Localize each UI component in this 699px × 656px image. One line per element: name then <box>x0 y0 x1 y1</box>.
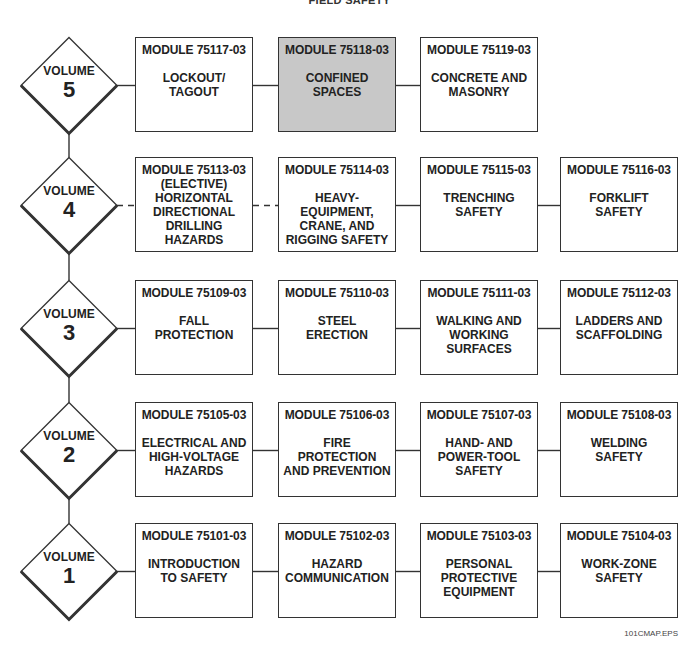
module-box: MODULE 75109-03FALL PROTECTION <box>135 280 253 375</box>
module-code: MODULE 75111-03 <box>421 286 537 300</box>
module-code: MODULE 75115-03 <box>421 163 537 177</box>
volume-word: VOLUME <box>21 64 117 78</box>
module-box: MODULE 75101-03INTRODUCTION TO SAFETY <box>135 523 253 618</box>
module-title: CONCRETE AND MASONRY <box>421 71 537 99</box>
module-title: FALL PROTECTION <box>136 314 252 342</box>
module-box: MODULE 75110-03STEEL ERECTION <box>278 280 396 375</box>
module-title: INTRODUCTION TO SAFETY <box>136 557 252 585</box>
module-box: MODULE 75104-03WORK-ZONE SAFETY <box>560 523 678 618</box>
module-box: MODULE 75115-03TRENCHING SAFETY <box>420 157 538 252</box>
volume-number: 1 <box>21 565 117 587</box>
volume-number: 4 <box>21 199 117 221</box>
volume-word: VOLUME <box>21 429 117 443</box>
module-title: WALKING AND WORKING SURFACES <box>421 314 537 356</box>
module-title: CONFINED SPACES <box>279 71 395 99</box>
volume-word: VOLUME <box>21 184 117 198</box>
module-title: (ELECTIVE) HORIZONTAL DIRECTIONAL DRILLI… <box>136 177 252 247</box>
module-title: FIRE PROTECTION AND PREVENTION <box>279 436 395 478</box>
module-title: LOCKOUT/ TAGOUT <box>136 71 252 99</box>
module-box: MODULE 75112-03LADDERS AND SCAFFOLDING <box>560 280 678 375</box>
module-code: MODULE 75110-03 <box>279 286 395 300</box>
module-box: MODULE 75106-03FIRE PROTECTION AND PREVE… <box>278 402 396 497</box>
module-code: MODULE 75109-03 <box>136 286 252 300</box>
volume-label: VOLUME2 <box>21 429 117 466</box>
module-code: MODULE 75113-03 <box>136 163 252 177</box>
module-box: MODULE 75108-03WELDING SAFETY <box>560 402 678 497</box>
module-box: MODULE 75113-03(ELECTIVE) HORIZONTAL DIR… <box>135 157 253 252</box>
volume-number: 3 <box>21 322 117 344</box>
module-code: MODULE 75103-03 <box>421 529 537 543</box>
module-title: WORK-ZONE SAFETY <box>561 557 677 585</box>
module-title: WELDING SAFETY <box>561 436 677 464</box>
volume-word: VOLUME <box>21 550 117 564</box>
module-code: MODULE 75114-03 <box>279 163 395 177</box>
module-box: MODULE 75111-03WALKING AND WORKING SURFA… <box>420 280 538 375</box>
module-code: MODULE 75119-03 <box>421 43 537 57</box>
module-box: MODULE 75105-03ELECTRICAL AND HIGH-VOLTA… <box>135 402 253 497</box>
volume-label: VOLUME3 <box>21 307 117 344</box>
module-code: MODULE 75106-03 <box>279 408 395 422</box>
module-title: LADDERS AND SCAFFOLDING <box>561 314 677 342</box>
file-label: 101CMAP.EPS <box>624 629 678 638</box>
module-box: MODULE 75103-03PERSONAL PROTECTIVE EQUIP… <box>420 523 538 618</box>
module-title: FORKLIFT SAFETY <box>561 191 677 219</box>
module-box: MODULE 75114-03HEAVY- EQUIPMENT, CRANE, … <box>278 157 396 252</box>
volume-label: VOLUME1 <box>21 550 117 587</box>
module-code: MODULE 75104-03 <box>561 529 677 543</box>
module-box: MODULE 75107-03HAND- AND POWER-TOOL SAFE… <box>420 402 538 497</box>
volume-label: VOLUME4 <box>21 184 117 221</box>
module-code: MODULE 75102-03 <box>279 529 395 543</box>
module-code: MODULE 75116-03 <box>561 163 677 177</box>
volume-number: 2 <box>21 444 117 466</box>
module-title: ELECTRICAL AND HIGH-VOLTAGE HAZARDS <box>136 436 252 478</box>
module-code: MODULE 75107-03 <box>421 408 537 422</box>
module-title: TRENCHING SAFETY <box>421 191 537 219</box>
module-code: MODULE 75112-03 <box>561 286 677 300</box>
module-code: MODULE 75117-03 <box>136 43 252 57</box>
module-title: PERSONAL PROTECTIVE EQUIPMENT <box>421 557 537 599</box>
module-box: MODULE 75119-03CONCRETE AND MASONRY <box>420 37 538 132</box>
module-title: HAZARD COMMUNICATION <box>279 557 395 585</box>
volume-word: VOLUME <box>21 307 117 321</box>
module-box-current: MODULE 75118-03CONFINED SPACES <box>278 37 396 132</box>
module-title: HEAVY- EQUIPMENT, CRANE, AND RIGGING SAF… <box>279 191 395 247</box>
module-code: MODULE 75108-03 <box>561 408 677 422</box>
module-title: STEEL ERECTION <box>279 314 395 342</box>
volume-number: 5 <box>21 79 117 101</box>
module-box: MODULE 75102-03HAZARD COMMUNICATION <box>278 523 396 618</box>
volume-label: VOLUME5 <box>21 64 117 101</box>
module-code: MODULE 75118-03 <box>279 43 395 57</box>
module-code: MODULE 75101-03 <box>136 529 252 543</box>
module-box: MODULE 75116-03FORKLIFT SAFETY <box>560 157 678 252</box>
module-code: MODULE 75105-03 <box>136 408 252 422</box>
module-title: HAND- AND POWER-TOOL SAFETY <box>421 436 537 478</box>
module-box: MODULE 75117-03LOCKOUT/ TAGOUT <box>135 37 253 132</box>
